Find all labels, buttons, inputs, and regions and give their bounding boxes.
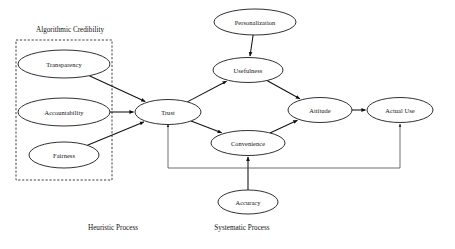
edge-trust-to-usefulness: [187, 81, 226, 102]
diagram-canvas: Algorithmic Credibility TransparencyAcco…: [0, 0, 455, 249]
process-label-systematic: Systematic Process: [214, 224, 269, 232]
research-model-diagram: Algorithmic Credibility TransparencyAcco…: [0, 0, 455, 249]
edge-trust-to-convenience: [191, 121, 222, 133]
node-label-accountability: Accountability: [44, 109, 84, 116]
node-label-accuracy: Accuracy: [235, 199, 261, 206]
node-label-transparency: Transparency: [46, 61, 82, 68]
node-label-personalization: Personalization: [235, 19, 276, 26]
edge-personalization-to-usefulness: [250, 35, 253, 56]
node-transparency[interactable]: Transparency: [18, 50, 110, 78]
process-label-layer: Heuristic ProcessSystematic Process: [88, 224, 270, 232]
node-attitude[interactable]: Attitude: [288, 98, 352, 123]
node-accuracy[interactable]: Accuracy: [218, 190, 278, 214]
process-label-heuristic: Heuristic Process: [88, 224, 138, 232]
node-convenience[interactable]: Convenience: [211, 131, 285, 156]
algorithmic-credibility-group-label: Algorithmic Credibility: [36, 26, 104, 34]
node-fairness[interactable]: Fairness: [29, 142, 99, 168]
node-label-convenience: Convenience: [231, 140, 265, 147]
node-label-actual_use: Actual Use: [385, 107, 414, 114]
node-trust[interactable]: Trust: [135, 100, 201, 125]
edge-fairness-to-trust: [87, 122, 143, 145]
edge-convenience-to-attitude: [270, 120, 297, 133]
node-personalization[interactable]: Personalization: [214, 9, 296, 35]
edge-transparency-to-trust: [89, 76, 145, 102]
node-label-fairness: Fairness: [53, 152, 75, 159]
edge-usefulness-to-attitude: [267, 81, 300, 99]
node-label-attitude: Attitude: [309, 107, 331, 114]
node-actual_use[interactable]: Actual Use: [367, 98, 433, 123]
node-usefulness[interactable]: Usefulness: [213, 58, 283, 83]
node-label-usefulness: Usefulness: [234, 67, 263, 74]
node-label-trust: Trust: [161, 109, 175, 116]
node-accountability[interactable]: Accountability: [18, 98, 110, 126]
